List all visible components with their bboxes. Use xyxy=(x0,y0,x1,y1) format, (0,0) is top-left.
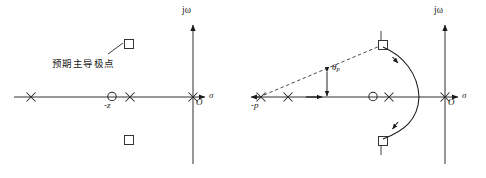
annotation-leader-line xyxy=(108,43,123,54)
locus-direction-arrow-upper xyxy=(393,57,399,63)
root-locus-figure: 预期主导极点 -z O jω σ -p θp O jω σ xyxy=(0,0,486,178)
left-real-axis-label: σ xyxy=(209,90,213,100)
left-desired-pole-upper xyxy=(125,40,134,49)
departure-angle-dashed-vector xyxy=(264,46,380,95)
right-pole-p-label: -p xyxy=(251,100,259,110)
expected-dominant-poles-label: 预期主导极点 xyxy=(52,56,114,70)
right-real-axis-label: σ xyxy=(462,90,466,100)
locus-direction-arrow-lower xyxy=(393,122,399,129)
root-locus-branch-lower xyxy=(383,97,419,139)
root-locus-branch-upper xyxy=(383,47,419,97)
right-imaginary-axis-label: jω xyxy=(434,5,443,15)
left-imaginary-axis-label: jω xyxy=(182,5,191,15)
theta-subscript: p xyxy=(336,65,339,72)
right-panel xyxy=(251,25,458,164)
figure-canvas xyxy=(0,0,486,178)
right-zero-marker xyxy=(369,92,377,100)
left-origin-label: O xyxy=(196,97,203,107)
departure-angle-label: θp xyxy=(332,62,340,72)
left-desired-pole-lower xyxy=(125,136,134,145)
left-zero-label: -z xyxy=(104,100,111,110)
left-panel xyxy=(14,25,205,164)
right-origin-label: O xyxy=(448,97,455,107)
